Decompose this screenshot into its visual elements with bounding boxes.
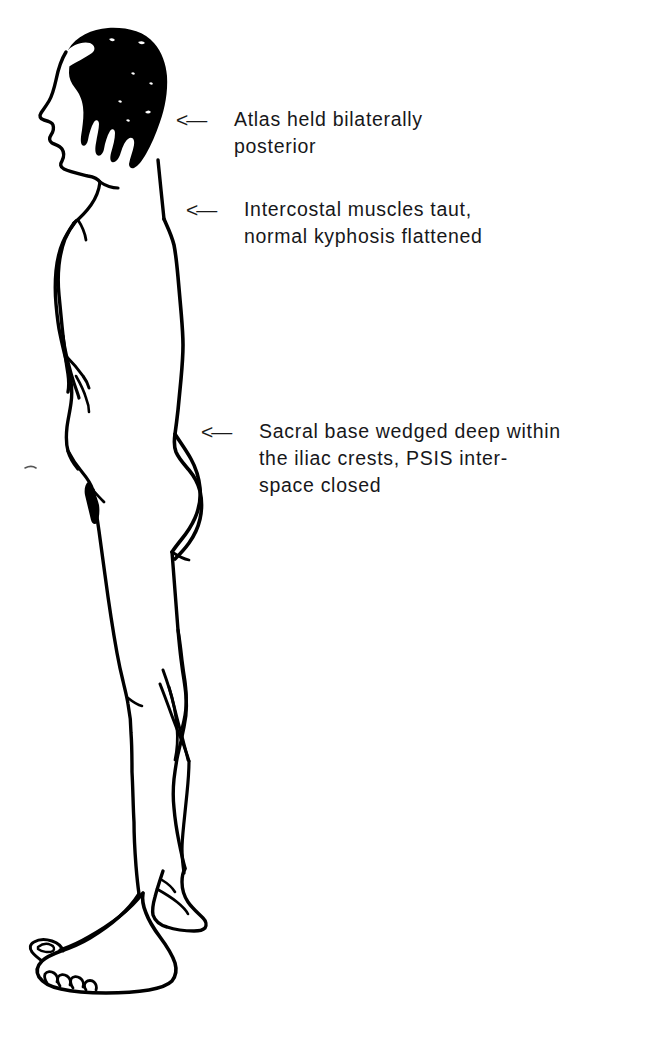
annotation-line: Intercostal muscles taut, — [244, 196, 656, 223]
annotation-line: space closed — [259, 472, 671, 499]
small-toes-group — [58, 975, 71, 986]
near-foot-instep-line — [60, 893, 143, 950]
near-leg-front-outline — [93, 490, 139, 894]
neck-front-line — [74, 182, 100, 223]
back-outline — [164, 219, 202, 559]
small-toes-group — [71, 977, 84, 988]
annotation-line: posterior — [234, 133, 646, 160]
leftward-arrow-icon: <— — [186, 196, 232, 223]
big-toe-nail — [38, 944, 54, 952]
small-toes-group — [45, 972, 58, 983]
annotation-line: normal kyphosis flattened — [244, 223, 656, 250]
small-toes-group — [85, 981, 97, 991]
leftward-arrow-icon: <— — [176, 106, 222, 133]
stray-ink-mark — [25, 467, 36, 469]
leftward-arrow-icon: <— — [201, 418, 247, 445]
figure-page: <— Atlas held bilaterally posterior <— I… — [0, 0, 672, 1039]
annotation-atlas: <— Atlas held bilaterally posterior — [176, 106, 646, 160]
annotation-sacral-base-text: Sacral base wedged deep within the iliac… — [247, 418, 671, 499]
annotation-thoracic: <— Intercostal muscles taut, normal kyph… — [186, 196, 656, 250]
annotation-thoracic-text: Intercostal muscles taut, normal kyphosi… — [232, 196, 656, 250]
far-foot-outline — [153, 869, 206, 931]
annotation-atlas-text: Atlas held bilaterally posterior — [222, 106, 646, 160]
annotation-sacral-base: <— Sacral base wedged deep within the il… — [201, 418, 671, 499]
annotation-line: Atlas held bilaterally — [234, 106, 646, 133]
jawline — [100, 182, 118, 188]
armpit-crease — [78, 220, 86, 240]
far-leg-shank — [182, 761, 189, 873]
annotation-line: the iliac crests, PSIS inter- — [259, 445, 671, 472]
ankle-malleolus-line — [162, 880, 175, 892]
knee-crease-near — [128, 698, 142, 706]
arm-outer-outline — [58, 221, 76, 392]
neck-back-line — [158, 160, 164, 219]
annotation-line: Sacral base wedged deep within — [259, 418, 671, 445]
